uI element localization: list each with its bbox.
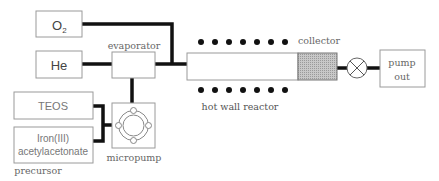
pump-out: pump out (380, 50, 425, 87)
pump-out-line2: out (394, 71, 410, 82)
micropump-label: micropump (107, 152, 162, 163)
hot-wall-reactor: hot wall reactor (187, 53, 298, 112)
micropump: micropump (107, 103, 162, 163)
he-label: He (51, 58, 68, 73)
iron-label-line2: acetylacetonate (18, 146, 88, 157)
evaporator: evaporator (108, 40, 161, 78)
o2-source: O2 (36, 11, 82, 37)
reactor-label: hot wall reactor (202, 101, 279, 112)
process-diagram: O2 He evaporator hot wall reactor collec… (0, 0, 439, 181)
collector-label: collector (298, 35, 341, 46)
evaporator-label: evaporator (108, 40, 161, 51)
valve-x-icon (347, 58, 367, 78)
precursor-label: precursor (14, 165, 62, 176)
precursor-manifold (93, 106, 103, 141)
iron-label-line1: Iron(III) (37, 133, 69, 144)
teos-label: TEOS (38, 100, 68, 112)
precursor-teos: TEOS (14, 92, 93, 119)
precursor-iron-acac: Iron(III) acetylacetonate (14, 127, 93, 163)
pump-out-line1: pump (388, 57, 415, 68)
collector: collector (298, 35, 341, 80)
he-source: He (36, 51, 82, 78)
